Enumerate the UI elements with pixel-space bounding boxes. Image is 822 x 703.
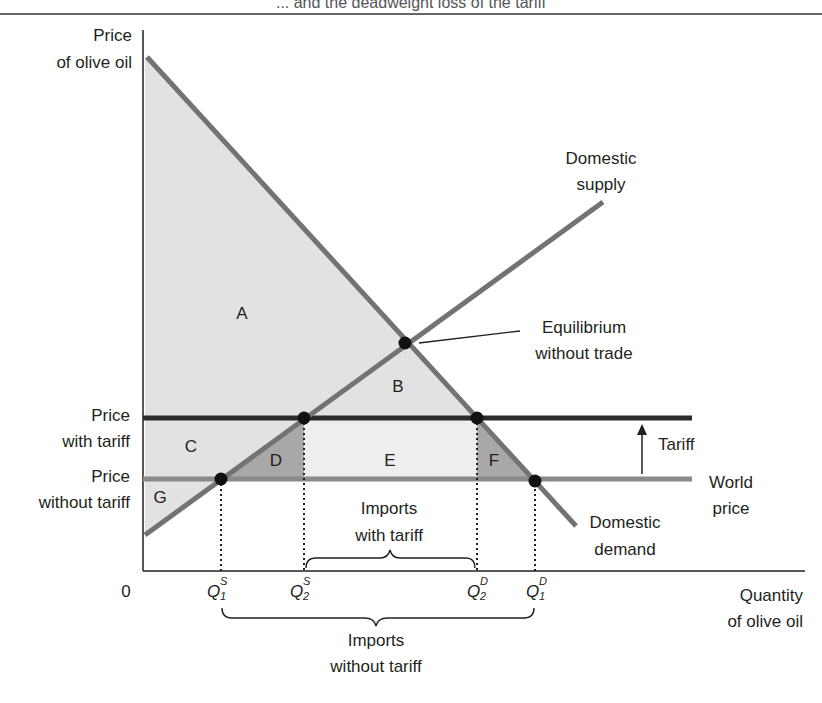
price-with-tariff-label-2: with tariff — [61, 432, 130, 451]
imports-with-tariff-label-1: Imports — [361, 499, 418, 518]
demand-label-2: demand — [594, 540, 655, 559]
svg-text:1: 1 — [220, 590, 226, 602]
y-axis-label-2: of olive oil — [56, 53, 132, 72]
tariff-chart: ... and the deadweight loss of the tarif… — [0, 0, 822, 703]
equilibrium-label-2: without trade — [534, 344, 632, 363]
area-c-label: C — [185, 437, 197, 456]
imports-with-tariff-label-2: with tariff — [354, 526, 423, 545]
point-q1s — [215, 473, 228, 486]
world-price-label-1: World — [709, 473, 753, 492]
area-b-label: B — [392, 377, 403, 396]
x-axis-label-1: Quantity — [740, 586, 804, 605]
q1s-label: Q S 1 — [207, 575, 228, 602]
area-d-label: D — [270, 451, 282, 470]
equilibrium-point — [399, 337, 412, 350]
imports-without-tariff-label-2: without tariff — [329, 657, 422, 676]
svg-text:Q: Q — [467, 582, 480, 601]
svg-text:Q: Q — [526, 582, 539, 601]
price-without-tariff-label-1: Price — [91, 467, 130, 486]
tariff-label: Tariff — [658, 435, 695, 454]
svg-text:Q: Q — [290, 582, 303, 601]
price-with-tariff-label-1: Price — [91, 406, 130, 425]
supply-label-1: Domestic — [566, 149, 637, 168]
price-without-tariff-label-2: without tariff — [38, 493, 131, 512]
svg-text:2: 2 — [302, 590, 309, 602]
point-q2d — [471, 412, 484, 425]
area-e-label: E — [384, 451, 395, 470]
q1d-label: Q D 1 — [526, 575, 547, 602]
area-a-label: A — [236, 304, 248, 323]
point-q1d — [529, 475, 542, 488]
q2d-label: Q D 2 — [467, 575, 488, 602]
imports-without-tariff-brace — [222, 608, 534, 626]
area-f-label: F — [489, 451, 499, 470]
svg-text:1: 1 — [539, 590, 545, 602]
q2s-label: Q S 2 — [290, 575, 311, 602]
point-q2s — [298, 412, 311, 425]
svg-text:Q: Q — [207, 582, 220, 601]
tariff-arrow-icon — [637, 424, 647, 435]
svg-text:2: 2 — [479, 590, 486, 602]
y-axis-label-1: Price — [93, 26, 132, 45]
demand-label-1: Domestic — [590, 513, 661, 532]
svg-text:D: D — [480, 575, 488, 587]
svg-text:S: S — [303, 575, 311, 587]
svg-text:D: D — [539, 575, 547, 587]
svg-text:S: S — [220, 575, 228, 587]
origin-label: 0 — [121, 582, 130, 601]
area-g-label: G — [153, 488, 166, 507]
equilibrium-leader — [419, 331, 520, 343]
supply-label-2: supply — [576, 175, 626, 194]
equilibrium-label-1: Equilibrium — [542, 318, 626, 337]
imports-without-tariff-label-1: Imports — [348, 631, 405, 650]
world-price-label-2: price — [713, 499, 750, 518]
caption: ... and the deadweight loss of the tarif… — [276, 0, 547, 11]
x-axis-label-2: of olive oil — [727, 612, 803, 631]
imports-with-tariff-brace — [306, 550, 475, 568]
